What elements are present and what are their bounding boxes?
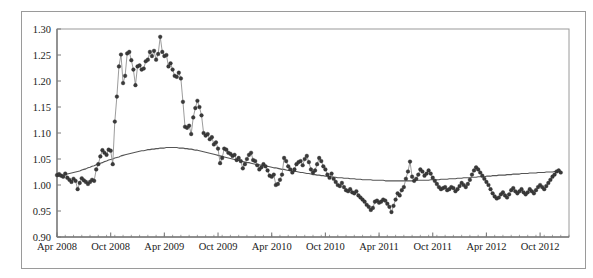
data-point-marker bbox=[249, 151, 253, 155]
data-point-marker bbox=[127, 50, 131, 54]
data-point-marker bbox=[200, 113, 204, 117]
data-point-marker bbox=[241, 167, 245, 171]
x-tick-label: Oct 2011 bbox=[414, 241, 452, 252]
data-point-marker bbox=[239, 159, 243, 163]
data-point-marker bbox=[171, 68, 175, 72]
data-point-marker bbox=[404, 177, 408, 181]
data-point-marker bbox=[138, 64, 142, 68]
data-point-marker bbox=[355, 189, 359, 193]
y-tick-label: 1.30 bbox=[33, 24, 51, 35]
data-point-marker bbox=[152, 49, 156, 53]
data-point-marker bbox=[165, 53, 169, 57]
data-point-marker bbox=[398, 194, 402, 198]
data-point-marker bbox=[264, 164, 268, 168]
data-point-marker bbox=[402, 185, 406, 189]
data-point-marker bbox=[429, 172, 433, 176]
data-point-marker bbox=[392, 204, 396, 208]
data-point-marker bbox=[416, 173, 420, 177]
y-tick-label: 1.20 bbox=[33, 76, 51, 87]
data-point-marker bbox=[134, 83, 138, 87]
data-point-marker bbox=[179, 77, 183, 81]
data-point-marker bbox=[307, 160, 311, 164]
data-point-marker bbox=[313, 169, 317, 173]
data-point-marker bbox=[216, 147, 220, 151]
data-point-marker bbox=[74, 179, 78, 183]
data-point-marker bbox=[388, 205, 392, 209]
data-point-marker bbox=[121, 81, 125, 85]
data-point-marker bbox=[105, 153, 109, 157]
data-point-marker bbox=[328, 176, 332, 180]
plot-background bbox=[22, 12, 585, 268]
data-point-marker bbox=[245, 157, 249, 161]
data-point-marker bbox=[233, 153, 237, 157]
data-point-marker bbox=[410, 175, 414, 179]
data-point-marker bbox=[255, 163, 259, 167]
data-point-marker bbox=[507, 193, 511, 197]
data-point-marker bbox=[154, 58, 158, 62]
data-point-marker bbox=[198, 105, 202, 109]
data-point-marker bbox=[253, 159, 257, 163]
data-point-marker bbox=[414, 177, 418, 181]
data-point-marker bbox=[284, 159, 288, 163]
data-point-marker bbox=[109, 149, 113, 153]
data-point-marker bbox=[99, 155, 103, 159]
data-point-marker bbox=[169, 61, 173, 65]
x-tick-label: Apr 2010 bbox=[252, 241, 292, 252]
data-point-marker bbox=[96, 162, 100, 166]
data-point-marker bbox=[315, 162, 319, 166]
data-point-marker bbox=[340, 181, 344, 185]
data-point-marker bbox=[129, 58, 133, 62]
data-point-marker bbox=[189, 132, 193, 136]
data-point-marker bbox=[470, 173, 474, 177]
data-point-marker bbox=[330, 172, 334, 176]
data-point-marker bbox=[214, 141, 218, 145]
data-point-marker bbox=[132, 68, 136, 72]
data-point-marker bbox=[487, 183, 491, 187]
y-tick-label: 1.05 bbox=[33, 154, 51, 165]
data-point-marker bbox=[266, 169, 270, 173]
figure-outer-border: 1.301.251.201.151.101.051.000.950.90 Apr… bbox=[21, 11, 586, 269]
data-point-marker bbox=[390, 210, 394, 214]
data-point-marker bbox=[160, 50, 164, 54]
data-point-marker bbox=[324, 168, 328, 172]
data-point-marker bbox=[191, 116, 195, 120]
data-point-marker bbox=[187, 124, 191, 128]
data-point-marker bbox=[305, 154, 309, 158]
data-point-marker bbox=[206, 132, 210, 136]
data-point-marker bbox=[210, 135, 214, 139]
data-point-marker bbox=[76, 187, 80, 191]
chart-plot-area: 1.301.251.201.151.101.051.000.950.90 Apr… bbox=[22, 12, 585, 268]
data-point-marker bbox=[406, 170, 410, 174]
data-point-marker bbox=[78, 181, 82, 185]
y-tick-label: 0.95 bbox=[33, 206, 51, 217]
x-tick-label: Oct 2008 bbox=[91, 241, 130, 252]
data-point-marker bbox=[117, 65, 121, 69]
data-point-marker bbox=[115, 95, 119, 99]
data-point-marker bbox=[293, 168, 297, 172]
data-point-marker bbox=[158, 35, 162, 39]
data-point-marker bbox=[111, 162, 115, 166]
data-point-marker bbox=[371, 206, 375, 210]
y-axis-tick-labels: 1.301.251.201.151.101.051.000.950.90 bbox=[33, 24, 51, 243]
data-point-marker bbox=[218, 161, 222, 165]
data-point-marker bbox=[175, 75, 179, 79]
data-point-marker bbox=[220, 156, 224, 160]
data-point-marker bbox=[63, 172, 67, 176]
data-point-marker bbox=[280, 173, 284, 177]
data-point-marker bbox=[123, 74, 127, 78]
x-tick-label: Oct 2012 bbox=[521, 241, 560, 252]
y-tick-label: 1.15 bbox=[33, 102, 51, 113]
data-point-marker bbox=[193, 106, 197, 110]
data-point-marker bbox=[466, 182, 470, 186]
data-point-marker bbox=[559, 171, 563, 175]
x-tick-label: Oct 2010 bbox=[306, 241, 345, 252]
x-tick-label: Apr 2012 bbox=[466, 241, 506, 252]
data-point-marker bbox=[243, 162, 247, 166]
data-point-marker bbox=[408, 160, 412, 164]
data-point-marker bbox=[319, 159, 323, 163]
data-point-marker bbox=[156, 52, 160, 56]
figure-container: 1.301.251.201.151.101.051.000.950.90 Apr… bbox=[0, 0, 593, 278]
data-point-marker bbox=[276, 182, 280, 186]
x-tick-label: Oct 2009 bbox=[199, 241, 238, 252]
data-point-marker bbox=[278, 178, 282, 182]
